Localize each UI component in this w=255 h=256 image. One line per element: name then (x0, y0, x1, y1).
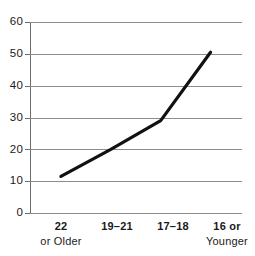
x-tick-label-3-line2: Younger (192, 234, 255, 249)
x-tick-label-3: 16 or Younger (192, 219, 255, 249)
data-series-line (0, 0, 255, 256)
x-tick-label-0-line2: or Older (26, 234, 96, 249)
x-axis-tick-labels: 22 or Older 19–21 17–18 16 or Younger (30, 219, 242, 255)
line-chart: 60 50 40 30 20 10 0 22 or Older (0, 0, 255, 256)
x-tick-label-3-line1: 16 or (192, 219, 255, 234)
